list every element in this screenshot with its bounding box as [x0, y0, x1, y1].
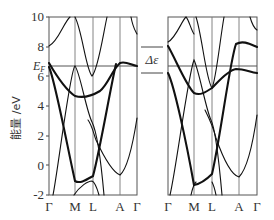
left-panel: Γ M L A Γ	[45, 17, 141, 214]
right-symmetry-lines	[194, 17, 239, 195]
right-k-A: A	[234, 199, 244, 214]
y-tick-4: 4	[38, 98, 45, 113]
right-k-gamma-start: Γ	[164, 199, 172, 214]
right-k-gamma-end: Γ	[253, 199, 261, 214]
right-bands	[168, 17, 257, 195]
right-k-M: M	[188, 199, 200, 214]
left-k-L: L	[89, 199, 97, 214]
left-k-gamma-start: Γ	[45, 199, 53, 214]
y-axis-label: 能量 /eV	[9, 96, 23, 140]
band-structure-figure: 能量 /eV 10 8 6 4 2 0 -2 EF	[0, 0, 274, 220]
left-symmetry-lines	[75, 17, 120, 195]
fermi-level-label: EF	[32, 59, 45, 74]
y-tick-2: 2	[38, 128, 45, 143]
right-panel: Γ M L A Γ	[164, 17, 261, 214]
gap-label: Δε	[145, 52, 160, 67]
y-axis-label-text: 能量 /eV	[9, 96, 23, 140]
left-k-A: A	[115, 199, 125, 214]
y-tick-10: 10	[31, 9, 44, 24]
left-k-labels: Γ M L A Γ	[45, 199, 141, 214]
gap-annotation: Δε	[141, 47, 163, 73]
right-k-L: L	[208, 199, 216, 214]
y-tick-0: 0	[38, 158, 45, 173]
left-k-gamma-end: Γ	[133, 199, 141, 214]
y-ticks: 10 8 6 4 2 0 -2	[31, 9, 45, 202]
left-k-M: M	[69, 199, 81, 214]
y-tick-8: 8	[38, 39, 45, 54]
y-tick-minus2: -2	[33, 187, 44, 202]
right-k-labels: Γ M L A Γ	[164, 199, 261, 214]
